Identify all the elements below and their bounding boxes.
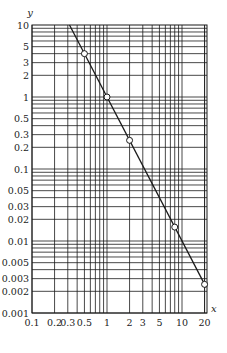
x-tick-label: 3 xyxy=(140,317,146,328)
x-tick-label: 10 xyxy=(176,317,188,328)
y-tick-label: 2 xyxy=(23,70,29,81)
y-tick-label: 0.5 xyxy=(14,113,29,124)
y-tick-label: 0.05 xyxy=(8,185,29,196)
y-tick-label: 1 xyxy=(23,92,29,103)
gridlines xyxy=(32,25,207,313)
data-point-marker xyxy=(127,137,133,143)
y-axis-tick-labels: 1053210.50.30.20.10.050.030.020.010.0050… xyxy=(2,20,29,319)
y-tick-label: 0.003 xyxy=(2,273,29,284)
x-tick-label: 0.1 xyxy=(24,317,39,328)
x-tick-label: 20 xyxy=(199,317,211,328)
y-tick-label: 0.002 xyxy=(2,286,29,297)
y-tick-label: 5 xyxy=(23,41,29,52)
x-axis-tick-labels: 0.10.20.30.512351020 xyxy=(24,317,210,328)
x-tick-label: 1 xyxy=(104,317,110,328)
x-tick-label: 0.3 xyxy=(60,317,75,328)
x-tick-label: 5 xyxy=(156,317,162,328)
y-tick-label: 0.3 xyxy=(14,129,29,140)
data-point-marker xyxy=(104,94,110,100)
y-tick-label: 0.03 xyxy=(8,201,29,212)
y-tick-label: 0.005 xyxy=(2,257,29,268)
y-tick-label: 0.01 xyxy=(8,236,29,247)
x-axis-label: x xyxy=(211,303,217,314)
y-tick-label: 0.2 xyxy=(14,142,29,153)
y-tick-label: 10 xyxy=(17,20,29,31)
x-tick-label: 2 xyxy=(127,317,133,328)
y-axis-label: y xyxy=(26,7,33,18)
data-point-marker xyxy=(81,51,87,57)
log-log-chart: 0.10.20.30.512351020 1053210.50.30.20.10… xyxy=(0,0,227,353)
y-tick-label: 0.1 xyxy=(14,164,29,175)
y-tick-label: 0.02 xyxy=(8,214,29,225)
x-tick-label: 0.5 xyxy=(77,317,92,328)
data-point-marker xyxy=(172,224,178,230)
y-tick-label: 3 xyxy=(23,57,29,68)
data-point-marker xyxy=(202,281,208,287)
y-tick-label: 0.001 xyxy=(2,308,29,319)
